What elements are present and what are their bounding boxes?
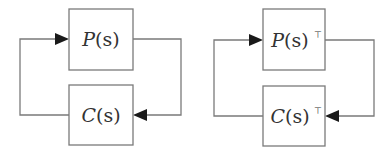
plant-label: P(s) bbox=[81, 28, 119, 50]
plant-transpose-label: P(s) bbox=[270, 29, 308, 51]
controller-label: C(s) bbox=[81, 104, 120, 126]
arrow-into-controller-icon bbox=[133, 109, 147, 121]
arrow-into-plant-icon bbox=[55, 33, 69, 45]
plant-transpose-superscript: ⊤ bbox=[314, 30, 322, 40]
controller-transpose-label: C(s) bbox=[270, 105, 309, 127]
wire-controller-t-to-plant-t bbox=[214, 40, 263, 116]
feedback-loop-diagram: P(s) C(s) bbox=[20, 9, 181, 145]
transposed-feedback-loop-diagram: P(s) ⊤ C(s) ⊤ bbox=[214, 9, 374, 146]
arrow-into-plant-t-icon bbox=[249, 34, 263, 46]
wire-plant-to-controller bbox=[133, 39, 181, 115]
arrow-into-controller-t-icon bbox=[325, 110, 339, 122]
wire-controller-to-plant bbox=[20, 39, 69, 115]
block-diagrams: P(s) C(s) P(s) ⊤ C(s) ⊤ bbox=[0, 0, 389, 162]
controller-transpose-superscript: ⊤ bbox=[314, 106, 322, 116]
wire-plant-t-to-controller-t bbox=[325, 40, 374, 116]
